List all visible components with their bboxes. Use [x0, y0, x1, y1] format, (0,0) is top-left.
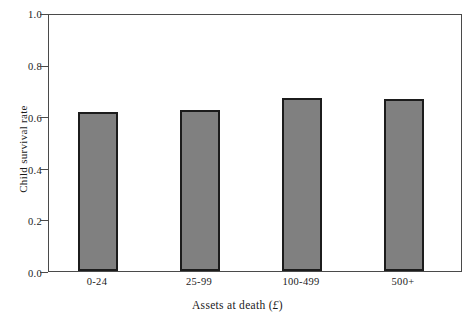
- bar-chart-figure: 0.0 0.2 0.4 0.6 0.8 1.0 Child survival r…: [0, 0, 475, 326]
- x-tick-label-500-plus: 500+: [358, 276, 448, 287]
- plot-area: [48, 14, 462, 272]
- x-axis-title: Assets at death (£): [0, 299, 475, 311]
- x-axis-title-prefix: Assets at death (: [192, 299, 273, 311]
- y-tick-mark-0: [40, 272, 48, 273]
- bars-layer: [49, 15, 461, 271]
- y-tick-mark-3: [40, 117, 48, 118]
- y-axis-title: Child survival rate: [17, 89, 29, 209]
- bar-0-24: [78, 112, 118, 271]
- bar-100-499: [282, 98, 322, 271]
- x-axis-title-suffix: ): [279, 299, 283, 311]
- y-tick-label-1: 0.2: [0, 216, 42, 227]
- y-tick-label-5: 1.0: [0, 9, 42, 20]
- bar-25-99: [180, 110, 220, 271]
- y-tick-mark-5: [40, 14, 48, 15]
- bar-500-plus: [384, 99, 424, 271]
- y-tick-mark-1: [40, 220, 48, 221]
- x-tick-label-25-99: 25-99: [154, 276, 244, 287]
- x-tick-label-100-499: 100-499: [256, 276, 346, 287]
- y-tick-mark-4: [40, 66, 48, 67]
- y-tick-mark-2: [40, 169, 48, 170]
- y-tick-label-0: 0.0: [0, 268, 42, 279]
- y-tick-label-4: 0.8: [0, 61, 42, 72]
- x-tick-label-0-24: 0-24: [52, 276, 142, 287]
